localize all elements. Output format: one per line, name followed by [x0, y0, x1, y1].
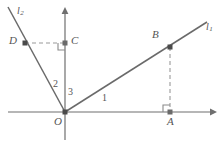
- figure-canvas: [0, 0, 221, 146]
- point-d: [23, 41, 28, 46]
- point-label-a: A: [167, 116, 174, 127]
- geometry-figure: A B C D O 2 3 1 l1 l2: [0, 0, 221, 146]
- point-b: [168, 45, 173, 50]
- angle-label-2: 2: [53, 79, 58, 89]
- point-c: [63, 41, 68, 46]
- angle-label-3: 3: [68, 87, 73, 97]
- point-label-c: C: [71, 35, 78, 46]
- line-label-l2-sub: 2: [20, 9, 24, 17]
- line-label-l2: l2: [17, 6, 24, 17]
- x-axis: [8, 109, 217, 116]
- point-a: [168, 110, 173, 115]
- point-label-d: D: [9, 35, 17, 46]
- y-axis: [62, 7, 69, 140]
- point-origin: [63, 110, 68, 115]
- line-l2: [8, 7, 65, 112]
- line-label-l1: l1: [206, 22, 213, 33]
- line-l1: [65, 22, 207, 112]
- point-label-b: B: [152, 29, 159, 40]
- line-label-l1-sub: 1: [209, 25, 213, 33]
- origin-label: O: [54, 116, 62, 127]
- angle-label-1: 1: [102, 93, 107, 103]
